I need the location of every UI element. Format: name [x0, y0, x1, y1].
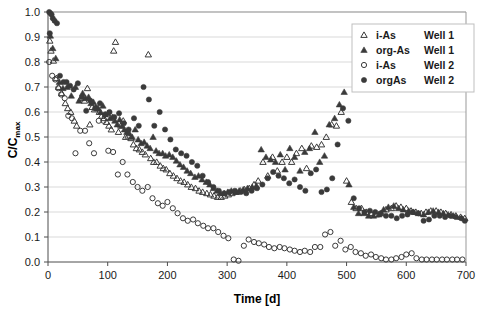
data-point [400, 213, 405, 218]
data-point [126, 127, 131, 132]
y-tick-label: 0.7 [25, 81, 40, 93]
y-tick-label: 0.8 [25, 56, 40, 68]
data-point [416, 211, 421, 216]
data-point [232, 188, 237, 193]
data-point [357, 206, 362, 211]
chart-canvas: 0.00.10.20.30.40.50.60.70.80.91.0 010020… [0, 0, 481, 316]
data-point [426, 217, 431, 222]
data-point [287, 181, 292, 186]
legend-item-label: org-As [376, 44, 410, 56]
data-point [227, 189, 232, 194]
x-tick-label: 600 [397, 269, 415, 281]
x-tick-label: 500 [337, 269, 355, 281]
data-point [443, 214, 448, 219]
data-point [216, 188, 221, 193]
data-point [97, 101, 102, 106]
data-point [453, 214, 458, 219]
y-tick-label: 0.1 [25, 231, 40, 243]
y-tick-label: 0.3 [25, 181, 40, 193]
data-point [93, 106, 98, 111]
data-point [168, 137, 173, 142]
data-point [211, 184, 216, 189]
data-point [448, 213, 453, 218]
x-tick-label: 100 [99, 269, 117, 281]
data-point [265, 176, 270, 181]
data-point [314, 167, 319, 172]
data-point [249, 188, 254, 193]
legend-item-label: i-As [376, 29, 396, 41]
data-point [131, 116, 136, 121]
data-point [319, 189, 324, 194]
data-point [57, 73, 62, 78]
legend-item-label: i-As [376, 59, 396, 71]
data-point [303, 188, 308, 193]
data-point [340, 106, 345, 111]
data-point [136, 123, 141, 128]
y-tick-label: 0.6 [25, 106, 40, 118]
data-point [394, 216, 399, 221]
data-point [297, 184, 302, 189]
data-point [112, 114, 117, 119]
legend-item-well: Well 2 [424, 74, 454, 86]
data-point [47, 31, 52, 36]
data-point [88, 98, 93, 103]
data-point [157, 109, 162, 114]
data-point [389, 213, 394, 218]
data-point [195, 163, 200, 168]
data-point [367, 208, 372, 213]
legend-item-well: Well 2 [424, 59, 454, 71]
data-point [437, 213, 442, 218]
legend-marker-icon [361, 77, 366, 82]
data-point [346, 118, 351, 123]
data-point [200, 173, 205, 178]
data-point [173, 147, 178, 152]
data-point [205, 179, 210, 184]
data-point [362, 209, 367, 214]
data-point [141, 84, 146, 89]
data-point [84, 108, 89, 113]
data-point [330, 176, 335, 181]
data-point [432, 213, 437, 218]
data-point [292, 177, 297, 182]
y-tick-label: 0.0 [25, 256, 40, 268]
data-point [146, 97, 151, 102]
data-point [121, 121, 126, 126]
y-tick-label: 0.2 [25, 206, 40, 218]
data-point [335, 142, 340, 147]
data-point [383, 213, 388, 218]
data-point [244, 191, 249, 196]
legend-item-label: orgAs [376, 74, 406, 86]
data-point [79, 94, 84, 99]
data-point [179, 151, 184, 156]
data-point [271, 169, 276, 174]
y-tick-label: 0.5 [25, 131, 40, 143]
x-tick-label: 400 [278, 269, 296, 281]
legend-container [352, 24, 474, 92]
x-tick-label: 200 [158, 269, 176, 281]
legend-item-well: Well 1 [424, 29, 454, 41]
y-tick-label: 0.4 [25, 156, 40, 168]
data-point [254, 186, 259, 191]
y-tick-label: 1.0 [25, 6, 40, 18]
data-point [276, 173, 281, 178]
data-point [75, 81, 80, 86]
data-point [324, 187, 329, 192]
data-point [222, 191, 227, 196]
data-point [116, 111, 121, 116]
data-point [405, 212, 410, 217]
x-tick-label: 0 [45, 269, 51, 281]
data-point [462, 218, 467, 223]
y-tick-label: 0.9 [25, 31, 40, 43]
data-point [351, 196, 356, 201]
data-point [281, 176, 286, 181]
data-point [107, 109, 112, 114]
x-axis-title: Time [d] [234, 292, 280, 306]
data-point [102, 112, 107, 117]
data-point [184, 153, 189, 158]
data-point [373, 209, 378, 214]
data-point [308, 171, 313, 176]
x-tick-label: 700 [457, 269, 475, 281]
x-tick-label: 300 [218, 269, 236, 281]
data-point [152, 123, 157, 128]
data-point [260, 182, 265, 187]
